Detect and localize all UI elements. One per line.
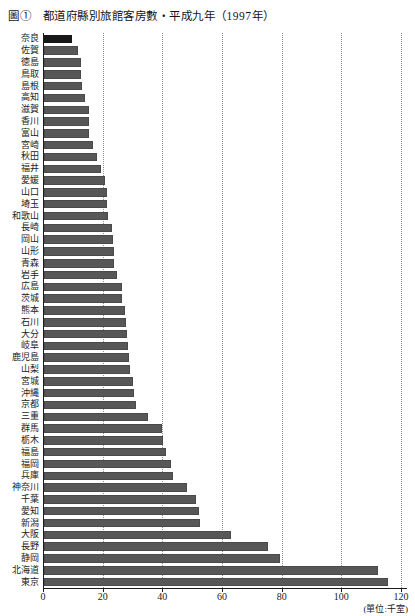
y-axis-label: 千葉 — [0, 494, 39, 505]
y-axis-label: 鳥取 — [0, 69, 39, 80]
bar — [44, 212, 108, 221]
bar — [44, 46, 78, 55]
plot-area: 奈良佐賀徳島鳥取島根高知滋賀香川富山宮崎秋田福井愛媛山口埼玉和歌山長崎岡山山形青… — [0, 0, 415, 616]
bar — [44, 353, 129, 362]
y-axis-label: 群馬 — [0, 423, 39, 434]
bar — [44, 578, 388, 587]
y-axis-label: 栃木 — [0, 435, 39, 446]
x-axis-tick-label: 20 — [86, 591, 120, 602]
y-axis-label: 山口 — [0, 187, 39, 198]
y-axis-label: 岐阜 — [0, 340, 39, 351]
bar — [44, 554, 280, 563]
bar — [44, 401, 136, 410]
y-axis-label: 沖縄 — [0, 388, 39, 399]
y-axis-label: 福井 — [0, 163, 39, 174]
bar — [44, 448, 166, 457]
y-axis-label: 東京 — [0, 577, 39, 588]
y-axis-label: 岡山 — [0, 234, 39, 245]
bar — [44, 306, 125, 315]
y-axis-label: 京都 — [0, 399, 39, 410]
bar — [44, 106, 89, 115]
bar — [44, 389, 134, 398]
bar — [44, 35, 72, 44]
y-axis-label: 神奈川 — [0, 482, 39, 493]
bar — [44, 330, 127, 339]
y-axis-label: 鹿児島 — [0, 352, 39, 363]
x-axis-tick-label: 40 — [145, 591, 179, 602]
x-axis-tick-label: 0 — [26, 591, 60, 602]
y-axis-label: 三重 — [0, 411, 39, 422]
bar — [44, 176, 105, 185]
bar — [44, 58, 81, 67]
bar — [44, 82, 82, 91]
bar — [44, 259, 114, 268]
y-axis-label: 北海道 — [0, 565, 39, 576]
y-axis-label: 茨城 — [0, 293, 39, 304]
y-axis-label: 岩手 — [0, 270, 39, 281]
bar — [44, 235, 113, 244]
y-axis-label: 大分 — [0, 329, 39, 340]
y-axis-label: 新潟 — [0, 518, 39, 529]
y-axis-label: 福岡 — [0, 459, 39, 470]
gridline-120 — [401, 33, 402, 588]
bar — [44, 165, 101, 174]
y-axis-label: 秋田 — [0, 151, 39, 162]
y-axis-label: 兵庫 — [0, 470, 39, 481]
bar — [44, 424, 162, 433]
y-axis-label: 大阪 — [0, 529, 39, 540]
bar — [44, 483, 187, 492]
bar — [44, 70, 81, 79]
bar — [44, 117, 89, 126]
bar — [44, 495, 196, 504]
y-axis-label: 島根 — [0, 81, 39, 92]
y-axis-label: 山形 — [0, 246, 39, 257]
x-axis-line — [43, 588, 407, 589]
bar — [44, 318, 126, 327]
y-axis-label: 埼玉 — [0, 199, 39, 210]
bar — [44, 519, 200, 528]
bar — [44, 413, 148, 422]
bar — [44, 129, 89, 138]
bar — [44, 200, 107, 209]
bar — [44, 94, 85, 103]
bar — [44, 153, 97, 162]
bar — [44, 141, 93, 150]
bar — [44, 436, 163, 445]
bar — [44, 460, 171, 469]
bar — [44, 542, 268, 551]
y-axis-label: 香川 — [0, 116, 39, 127]
y-axis-label: 奈良 — [0, 33, 39, 44]
x-axis-tick-label: 120 — [384, 591, 415, 602]
y-axis-label: 広島 — [0, 281, 39, 292]
bar — [44, 188, 107, 197]
bar — [44, 294, 122, 303]
chart-page: 圖① 都道府縣別旅館客房數・平成九年（1997年） 奈良佐賀徳島鳥取島根高知滋賀… — [0, 0, 415, 616]
y-axis-label: 滋賀 — [0, 104, 39, 115]
y-axis-label: 愛媛 — [0, 175, 39, 186]
bar — [44, 507, 199, 516]
bar — [44, 365, 130, 374]
y-axis-label: 宮城 — [0, 376, 39, 387]
y-axis-label: 山梨 — [0, 364, 39, 375]
y-axis-label: 高知 — [0, 92, 39, 103]
y-axis-label: 富山 — [0, 128, 39, 139]
y-axis-label: 佐賀 — [0, 45, 39, 56]
x-axis-tick-label: 100 — [324, 591, 358, 602]
bar — [44, 566, 378, 575]
gridline-60 — [222, 33, 223, 588]
bar — [44, 377, 133, 386]
y-axis-label: 宮崎 — [0, 140, 39, 151]
y-axis-line — [43, 33, 44, 588]
y-axis-label: 長野 — [0, 541, 39, 552]
y-axis-label: 青森 — [0, 258, 39, 269]
y-axis-label: 福島 — [0, 447, 39, 458]
bar — [44, 342, 128, 351]
y-axis-label: 熊本 — [0, 305, 39, 316]
x-axis-tick-label: 80 — [265, 591, 299, 602]
bar — [44, 531, 231, 540]
y-axis-label: 石川 — [0, 317, 39, 328]
bar — [44, 247, 114, 256]
bar — [44, 224, 112, 233]
gridline-100 — [341, 33, 342, 588]
y-axis-label: 長崎 — [0, 222, 39, 233]
